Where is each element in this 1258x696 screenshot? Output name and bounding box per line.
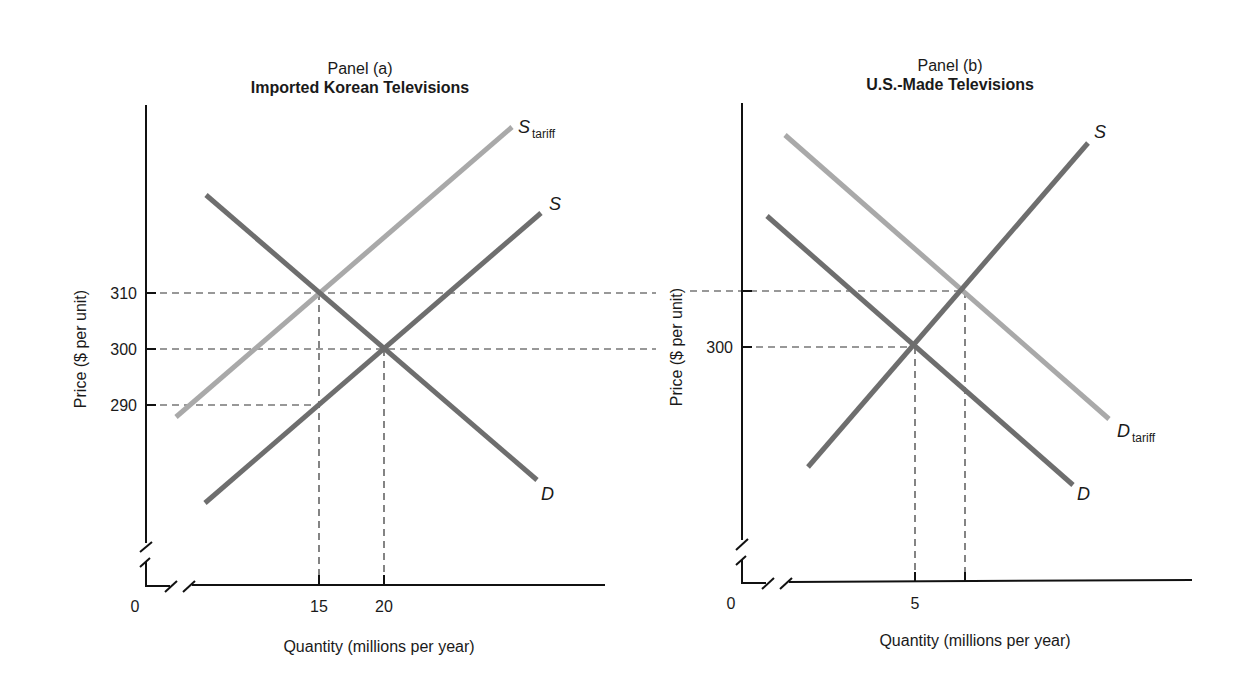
x-axis-break-right	[183, 581, 195, 592]
panel-a-chart: 310 300 290 15 20 0 Price ($ per unit) Q…	[72, 105, 656, 655]
panel-b-chart: 300 5 0 Price ($ per unit) Quantity (mil…	[668, 103, 1192, 649]
y-axis-break-top	[736, 539, 748, 550]
x-axis	[789, 580, 1192, 582]
x-axis-label: Quantity (millions per year)	[283, 638, 474, 655]
supply-curve	[205, 213, 541, 503]
supply-tariff-label: Stariff	[518, 117, 556, 141]
y-tick-label-300: 300	[110, 341, 137, 358]
chart-canvas: 310 300 290 15 20 0 Price ($ per unit) Q…	[0, 0, 1258, 696]
y-tick-label-310: 310	[110, 285, 137, 302]
supply-tariff-curve	[176, 127, 512, 417]
axis-corner	[742, 560, 766, 583]
origin-label: 0	[131, 598, 140, 615]
x-tick-label-20: 20	[375, 598, 393, 615]
origin-label: 0	[727, 595, 736, 612]
axis-corner	[146, 562, 170, 586]
x-tick-label-15: 15	[310, 598, 328, 615]
x-axis-label: Quantity (millions per year)	[879, 632, 1070, 649]
supply-label: S	[549, 194, 561, 214]
demand-tariff-label: Dtariff	[1117, 421, 1156, 445]
x-axis-break-right	[780, 578, 792, 589]
demand-label: D	[541, 484, 554, 504]
y-axis-label: Price ($ per unit)	[668, 288, 685, 406]
y-axis-break-top	[140, 542, 152, 552]
supply-label: S	[1094, 122, 1106, 142]
y-axis-label: Price ($ per unit)	[72, 290, 89, 408]
x-tick-label-5: 5	[911, 595, 920, 612]
demand-label: D	[1077, 484, 1090, 504]
y-tick-label-300: 300	[706, 339, 733, 356]
demand-curve	[206, 195, 537, 480]
y-tick-label-290: 290	[110, 397, 137, 414]
